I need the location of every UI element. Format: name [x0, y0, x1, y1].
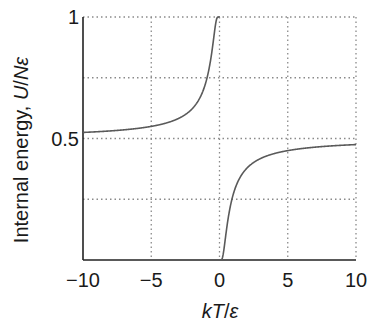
y-tick-labels: 0.51	[51, 6, 79, 150]
x-tick-label: −5	[140, 269, 163, 291]
internal-energy-chart: −10−50510 0.51 kT/ε Internal energy, U/N…	[0, 0, 375, 327]
x-tick-label: 5	[282, 269, 293, 291]
grid-lines	[83, 17, 356, 260]
x-tick-labels: −10−50510	[66, 269, 367, 291]
x-tick-label: 10	[345, 269, 367, 291]
y-tick-label: 0.5	[51, 128, 79, 150]
y-axis-label: Internal energy, U/Nε	[10, 56, 32, 244]
y-tick-label: 1	[68, 6, 79, 28]
x-tick-label: −10	[66, 269, 100, 291]
x-axis-label: kT/ε	[202, 300, 240, 322]
x-tick-label: 0	[214, 269, 225, 291]
